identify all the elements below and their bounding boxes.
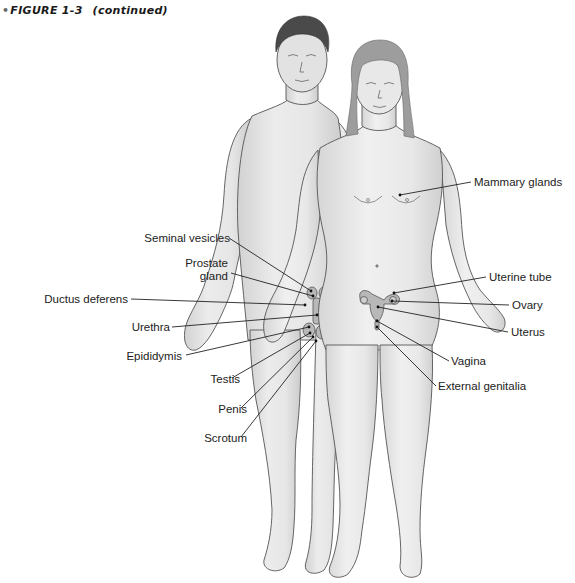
leader-dot-seminal-vesicles	[310, 290, 313, 293]
leader-dot-penis	[312, 336, 315, 339]
label-vagina: Vagina	[451, 355, 495, 368]
label-scrotum: Scrotum	[195, 432, 247, 445]
leader-dot-prostate-gland	[312, 295, 315, 298]
label-urethra: Urethra	[122, 321, 170, 334]
leader-dot-urethra	[316, 314, 319, 317]
leader-dot-external-genitalia	[376, 326, 379, 329]
label-mammary-glands: Mammary glands	[474, 176, 574, 189]
leader-dot-ovary	[391, 300, 394, 303]
label-ductus-deferens: Ductus deferens	[24, 293, 128, 306]
label-ovary: Ovary	[512, 299, 552, 312]
leader-dot-ductus-deferens	[304, 304, 307, 307]
leader-dot-uterus	[377, 306, 380, 309]
label-external-genitalia: External genitalia	[438, 380, 548, 393]
male-left-leg	[250, 330, 301, 571]
label-uterus: Uterus	[511, 326, 555, 339]
label-prostate-gland: Prostategland	[176, 257, 228, 283]
leader-dot-uterine-tube	[393, 292, 396, 295]
label-penis: Penis	[211, 403, 247, 416]
leader-dot-testis	[309, 332, 312, 335]
leader-dot-mammary-glands	[399, 194, 402, 197]
leader-dot-vagina	[376, 320, 379, 323]
leader-dot-scrotum	[315, 340, 318, 343]
label-uterine-tube: Uterine tube	[489, 271, 569, 284]
anatomy-illustration	[0, 0, 575, 583]
leader-dot-epididymis	[308, 326, 311, 329]
label-epididymis: Epididymis	[110, 350, 182, 363]
female-left-leg	[380, 345, 433, 577]
label-testis: Testis	[200, 373, 240, 386]
label-seminal-vesicles: Seminal vesicles	[122, 232, 230, 245]
